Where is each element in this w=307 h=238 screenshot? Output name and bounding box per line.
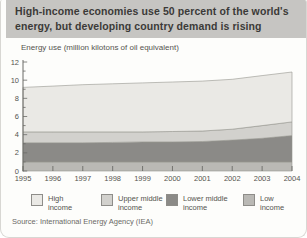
area-low-income xyxy=(23,162,292,171)
y-tick-label: 12 xyxy=(11,58,19,67)
legend-item: Low income xyxy=(243,194,284,212)
x-tick-label: 2000 xyxy=(164,174,181,183)
area-high-income xyxy=(23,72,292,132)
x-tick-label: 2003 xyxy=(254,174,271,183)
legend-item: High income xyxy=(31,194,72,212)
report-card: High-income economies use 50 percent of … xyxy=(0,0,307,238)
source-note: Source: International Energy Agency (IEA… xyxy=(12,217,153,226)
y-tick-label: 2 xyxy=(15,148,19,157)
legend-label: Upper middle income xyxy=(118,194,163,212)
legend-item: Upper middle income xyxy=(101,194,163,212)
stacked-area-chart: 0246810121995199619971998199920002001200… xyxy=(1,56,307,190)
legend-swatch xyxy=(101,194,113,206)
axis-title: Energy use (million kilotons of oil equi… xyxy=(21,43,179,52)
chart-headline: High-income economies use 50 percent of … xyxy=(6,0,306,38)
legend-label: Lower middle income xyxy=(183,194,228,212)
x-tick-label: 1995 xyxy=(15,174,32,183)
x-tick-label: 2001 xyxy=(194,174,211,183)
x-tick-label: 1996 xyxy=(45,174,62,183)
x-tick-label: 2004 xyxy=(284,174,301,183)
x-tick-label: 1997 xyxy=(74,174,91,183)
legend-label: Low income xyxy=(260,194,284,212)
x-tick-label: 1999 xyxy=(134,174,151,183)
y-tick-label: 4 xyxy=(15,130,19,139)
legend-swatch xyxy=(243,194,255,206)
y-tick-label: 6 xyxy=(15,112,19,121)
legend-label: High income xyxy=(48,194,72,212)
x-tick-label: 1998 xyxy=(104,174,121,183)
x-tick-label: 2002 xyxy=(224,174,241,183)
y-tick-label: 8 xyxy=(15,94,19,103)
legend-item: Lower middle income xyxy=(166,194,228,212)
legend-swatch xyxy=(31,194,43,206)
legend-swatch xyxy=(166,194,178,206)
y-tick-label: 10 xyxy=(11,76,19,85)
